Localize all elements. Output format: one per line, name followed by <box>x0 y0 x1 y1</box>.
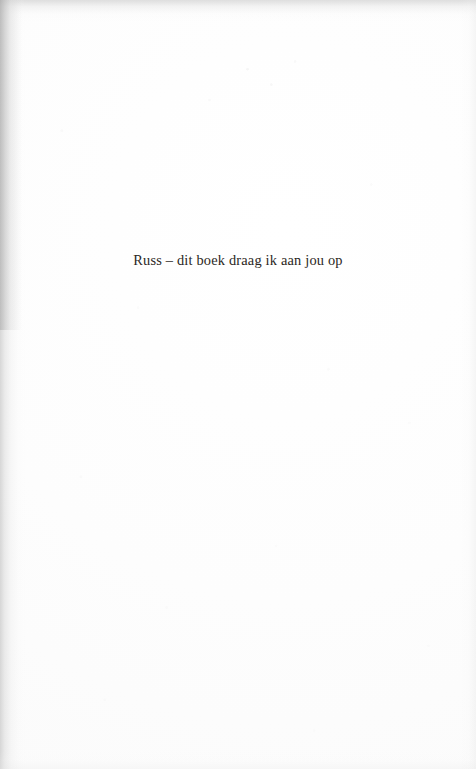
page-edge-shadow-left <box>0 0 26 769</box>
paper-tone-layer <box>0 0 476 769</box>
dedication-line: Russ – dit boek draag ik aan jou op <box>0 251 476 269</box>
page-edge-shadow-right <box>460 0 476 769</box>
paper-grain-texture <box>0 0 476 769</box>
page-edge-shadow-bottom <box>0 751 476 769</box>
scanned-book-page: Russ – dit boek draag ik aan jou op <box>0 0 476 769</box>
page-edge-shadow-top <box>0 0 476 22</box>
page-edge-shadow-left-upper <box>0 0 22 330</box>
